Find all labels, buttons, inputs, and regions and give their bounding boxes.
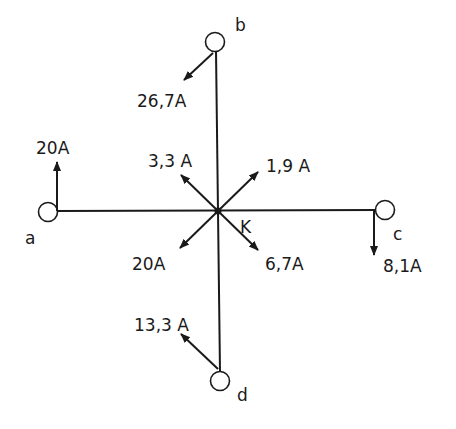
node-current-diagram: a b c d K 20A 26,7A 8,1A 13,3 A 3,3 A 1,… xyxy=(0,0,456,429)
terminal-label-b: b xyxy=(235,15,246,35)
current-label-down-left: 20A xyxy=(132,254,166,274)
current-label-down-right: 6,7A xyxy=(265,254,304,274)
arrow-up-left-icon xyxy=(181,175,218,211)
node-label-k: K xyxy=(240,217,252,237)
terminal-label-d: d xyxy=(237,385,248,405)
terminal-b xyxy=(206,33,225,52)
current-label-c: 8,1A xyxy=(383,256,422,276)
terminal-label-c: c xyxy=(393,224,402,244)
terminal-a xyxy=(39,203,58,222)
arrow-down-right-icon xyxy=(218,211,258,250)
terminal-c xyxy=(376,201,395,220)
terminal-label-a: a xyxy=(25,228,35,248)
arrow-up-right-icon xyxy=(218,172,258,211)
current-label-d: 13,3 A xyxy=(134,315,189,335)
current-label-up-right: 1,9 A xyxy=(266,156,310,176)
current-label-b: 26,7A xyxy=(137,91,187,111)
arrow-up-left-icon xyxy=(181,334,218,369)
current-label-a: 20A xyxy=(36,138,70,158)
arrow-down-left-icon xyxy=(180,211,218,248)
terminal-d xyxy=(211,372,230,391)
current-label-up-left: 3,3 A xyxy=(148,151,192,171)
arrow-down-left-icon xyxy=(184,53,213,80)
